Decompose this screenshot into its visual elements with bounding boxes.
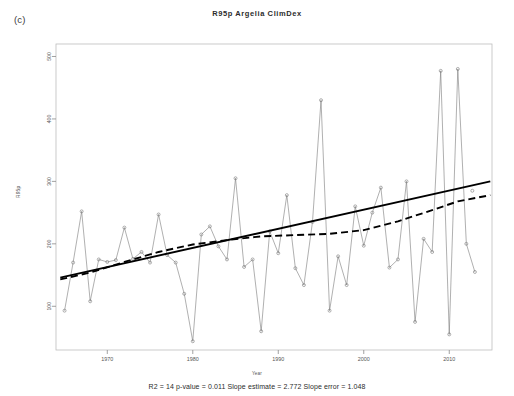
isolated-points	[471, 189, 474, 192]
svg-text:1970: 1970	[101, 356, 113, 362]
plot-axes	[56, 44, 492, 350]
svg-text:1980: 1980	[187, 356, 199, 362]
y-axis-ticks: 100200300400500	[46, 52, 56, 311]
svg-text:400: 400	[46, 114, 52, 123]
chart-title: R95p Argelia ClimDex	[0, 9, 514, 18]
data-series-points	[63, 67, 476, 342]
svg-text:1990: 1990	[272, 356, 284, 362]
svg-text:100: 100	[46, 302, 52, 311]
x-axis-label: Year	[0, 371, 514, 376]
data-series-line	[65, 69, 475, 341]
svg-text:2010: 2010	[443, 356, 455, 362]
svg-text:200: 200	[46, 239, 52, 248]
x-axis-ticks: 19701980199020002010	[101, 350, 455, 362]
stats-caption: R2 = 14 p-value = 0.011 Slope estimate =…	[0, 383, 514, 390]
y-axis-label: R95p	[16, 186, 21, 198]
plot-canvas: 100200300400500 19701980199020002010	[0, 0, 514, 396]
svg-text:2000: 2000	[358, 356, 370, 362]
smoothed-trend-line	[60, 195, 490, 279]
figure-panel: (c) R95p Argelia ClimDex R95p Year R2 = …	[0, 0, 514, 396]
svg-text:500: 500	[46, 52, 52, 61]
svg-text:300: 300	[46, 177, 52, 186]
